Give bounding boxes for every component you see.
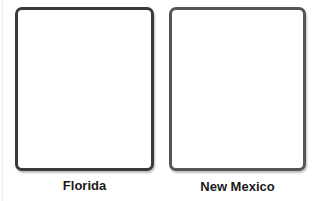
- new-mexico-panel: [169, 7, 306, 171]
- florida-panel: [15, 7, 154, 171]
- new-mexico-label: New Mexico: [169, 179, 306, 194]
- florida-label: Florida: [15, 178, 154, 193]
- left-edge-divider: [2, 0, 3, 201]
